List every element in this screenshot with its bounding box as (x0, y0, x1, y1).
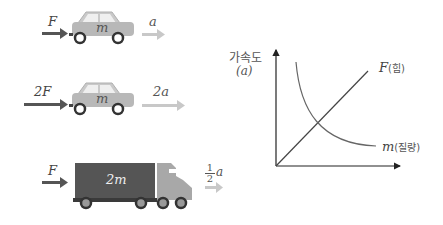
force-label-1: F (48, 14, 57, 29)
force-arrow-icon (42, 177, 68, 188)
force-line-var: F (379, 60, 388, 75)
mass-curve-var: m (382, 139, 394, 154)
force-arrow-icon (24, 99, 68, 110)
mass-label-1: m (96, 20, 108, 35)
mass-curve-kor: (질량) (394, 142, 420, 153)
mass-curve-label: m(질량) (382, 139, 420, 154)
accel-label-3-var: a (216, 165, 223, 179)
force-line (276, 71, 368, 166)
force-arrow-icon (42, 28, 68, 39)
force-line-kor: (힘) (388, 63, 405, 74)
accel-arrow-icon (142, 29, 165, 40)
force-label-2: 2F (34, 84, 51, 99)
force-label-3: F (48, 163, 57, 178)
y-axis-symbol: (a) (236, 64, 253, 78)
accel-label-1: a (149, 14, 157, 29)
force-line-label: F(힘) (379, 60, 405, 75)
diagram-canvas (0, 0, 443, 225)
mass-label-3: 2m (106, 172, 127, 187)
scene-3 (42, 163, 223, 208)
accel-label-2: 2a (153, 84, 169, 99)
accel-arrow-icon (142, 100, 185, 111)
mass-label-2: m (96, 91, 108, 106)
fraction-denominator: 2 (205, 174, 215, 184)
truck-icon (73, 163, 192, 208)
y-axis-label: 가속도 (229, 48, 262, 65)
accel-fraction: 1 2 (205, 163, 215, 184)
